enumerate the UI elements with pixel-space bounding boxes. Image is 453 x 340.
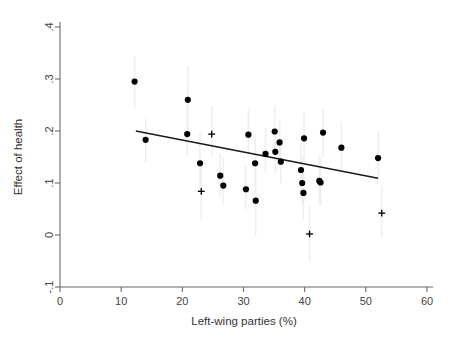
data-point-circle [217,173,223,179]
x-tick-label: 30 [237,295,249,307]
y-tick-label: .2 [43,126,55,135]
data-point-circle [262,151,268,157]
axes-group [60,22,433,287]
data-point-circle [243,186,249,192]
scatter-plot-figure: 0102030405060 -.10.1.2.3.4 Left-wing par… [0,0,453,340]
data-point-circle [300,190,306,196]
y-tick-label: 0 [43,232,55,238]
data-point-circle [276,139,282,145]
x-tick-label: 40 [299,295,311,307]
data-point-circle [338,145,344,151]
x-tick-label: 0 [57,295,63,307]
y-tick-label: -.1 [43,281,55,294]
y-axis-title: Effect of health [12,119,24,196]
x-tick-label: 20 [176,295,188,307]
data-point-circle [252,160,258,166]
x-tick-label: 10 [115,295,127,307]
data-point-circle [245,132,251,138]
plot-canvas: 0102030405060 -.10.1.2.3.4 Left-wing par… [0,0,453,340]
data-point-circle [184,131,190,137]
y-tick-label: .3 [43,74,55,83]
marker-group [132,79,386,238]
data-point-circle [298,167,304,173]
data-point-circle [317,179,323,185]
data-point-circle [143,137,149,143]
x-tick-label: 60 [421,295,433,307]
y-tick-label: .1 [43,178,55,187]
y-tick-group: -.10.1.2.3.4 [43,22,60,293]
data-point-circle [197,160,203,166]
data-point-circle [320,129,326,135]
errorbar-group [135,56,382,262]
y-tick-label: .4 [43,22,55,31]
x-tick-label: 50 [360,295,372,307]
data-point-circle [272,128,278,134]
data-point-circle [272,149,278,155]
data-point-circle [278,159,284,165]
x-tick-group: 0102030405060 [57,287,433,307]
data-point-circle [301,135,307,141]
data-point-circle [220,183,226,189]
data-point-circle [185,97,191,103]
x-axis-title: Left-wing parties (%) [191,315,297,327]
data-point-circle [253,198,259,204]
data-point-circle [375,155,381,161]
data-point-circle [132,79,138,85]
data-point-circle [299,180,305,186]
